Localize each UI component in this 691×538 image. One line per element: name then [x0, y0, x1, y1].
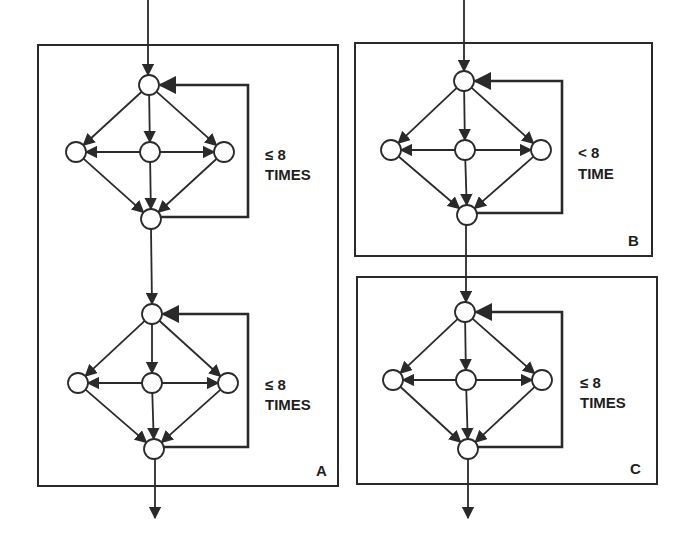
b-stage1-node-center — [455, 140, 475, 160]
a-stage2-node-top — [142, 304, 162, 324]
a-stage2-edge-top-left — [85, 321, 144, 376]
a-stage1-node-center — [140, 142, 160, 162]
a-stage1-edge-right-bottom — [158, 159, 216, 212]
b-stage1-edge-right-bottom — [475, 157, 534, 209]
a-stage1-edge-top-center — [149, 95, 150, 142]
c-stage1-node-left — [383, 370, 403, 390]
panel-label-c: C — [630, 460, 641, 477]
a-stage2-node-center — [142, 373, 162, 393]
c-stage1-node-center — [456, 370, 476, 390]
a-stage2-loop-count-label: ≤ 8 — [265, 376, 286, 393]
a-stage2-node-bottom — [144, 439, 164, 459]
b-stage1-node-top — [454, 71, 474, 91]
a-stage1-node-left — [66, 142, 86, 162]
c-stage1-edge-top-left — [400, 319, 457, 373]
b-stage1-loop-unit-label: TIME — [578, 165, 614, 182]
b-stage1-node-left — [381, 140, 401, 160]
a-stage2-edge-top-right — [159, 321, 220, 377]
a-stage1-node-right — [214, 142, 234, 162]
a-stage2-edge-left-bottom — [86, 390, 147, 443]
a-stage1-node-top — [139, 75, 159, 95]
a-stage2-edge-right-bottom — [161, 390, 220, 443]
flow-diagram: A≤ 8TIMES≤ 8TIMESB< 8TIMEC≤ 8TIMES — [0, 0, 691, 538]
b-stage1-edge-top-right — [471, 88, 533, 144]
a-stage1-loop-unit-label: TIMES — [265, 166, 311, 183]
a-stage1-node-bottom — [141, 209, 161, 229]
a-stage1-edge-top-left — [83, 92, 141, 145]
c-stage1-node-right — [532, 370, 552, 390]
inter-stage-arrow-a — [151, 229, 152, 304]
a-stage1-edge-top-right — [156, 92, 216, 146]
annotations: A≤ 8TIMES≤ 8TIMESB< 8TIMEC≤ 8TIMES — [265, 144, 641, 479]
b-stage1-edge-center-bottom — [465, 160, 466, 205]
a-stage1-loop-count-label: ≤ 8 — [265, 146, 286, 163]
b-stage1-node-right — [531, 140, 551, 160]
b-stage1-loop-count-label: < 8 — [578, 144, 599, 161]
b-stage1-edge-top-left — [398, 88, 456, 143]
a-stage2-edge-center-bottom — [152, 393, 153, 439]
a-stage1-edge-left-bottom — [83, 159, 143, 213]
c-stage1-edge-right-bottom — [475, 387, 534, 442]
panel-label-b: B — [628, 232, 639, 249]
a-stage1-edge-center-bottom — [150, 162, 151, 209]
c-stage1-loop-count-label: ≤ 8 — [580, 374, 601, 391]
a-stage2-node-left — [68, 373, 88, 393]
panel-boxes — [38, 43, 657, 486]
b-stage1-edge-top-center — [464, 91, 465, 140]
c-stage1-edge-top-center — [465, 322, 466, 370]
c-stage1-edge-top-right — [472, 319, 534, 374]
a-stage2-loop-unit-label: TIMES — [265, 396, 311, 413]
c-stage1-loop-unit-label: TIMES — [580, 394, 626, 411]
c-stage1-edge-left-bottom — [400, 387, 460, 442]
b-stage1-node-bottom — [457, 205, 477, 225]
c-stage1-edge-center-bottom — [466, 390, 467, 439]
c-stage1-node-top — [455, 302, 475, 322]
b-stage1-edge-left-bottom — [399, 156, 460, 208]
a-stage2-node-right — [218, 373, 238, 393]
panel-label-a: A — [316, 462, 327, 479]
c-stage1-node-bottom — [458, 439, 478, 459]
